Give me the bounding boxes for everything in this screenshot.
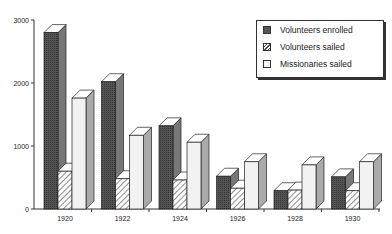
bar [102, 82, 116, 209]
bar [360, 162, 374, 209]
x-tick-label: 1928 [287, 215, 303, 222]
legend-item-sailed: Volunteers sailed [263, 38, 383, 55]
dark-swatch-icon [263, 26, 271, 34]
bar [116, 179, 130, 209]
bar [72, 98, 86, 209]
legend-label: Volunteers sailed [280, 42, 345, 52]
bar [217, 176, 231, 209]
x-tick-label: 1924 [172, 215, 188, 222]
x-tick-label: 1920 [57, 215, 73, 222]
bar [44, 33, 58, 209]
bar-group-1926 [217, 154, 267, 209]
bar [173, 180, 187, 209]
bar [346, 191, 360, 209]
x-axis-labels: 192019221924192619281930 [57, 215, 360, 222]
bar-group-1930 [332, 154, 382, 209]
bar [159, 126, 173, 209]
y-tick-label: 3000 [13, 17, 29, 24]
bar [245, 162, 259, 209]
y-tick-label: 0 [25, 206, 29, 213]
bar-group-1920 [44, 25, 94, 209]
bar [231, 188, 245, 209]
bar [130, 135, 144, 209]
x-tick-label: 1926 [230, 215, 246, 222]
bar-group-1924 [159, 118, 209, 209]
hatched-swatch-icon [263, 43, 271, 51]
bar [288, 190, 302, 209]
light-swatch-icon [263, 60, 271, 68]
y-tick-label: 1000 [13, 143, 29, 150]
legend-label: Missionaries sailed [280, 59, 352, 69]
bar [302, 165, 316, 209]
bar-group-1928 [274, 157, 324, 209]
x-tick-label: 1922 [115, 215, 131, 222]
legend-label: Volunteers enrolled [280, 25, 353, 35]
legend: Volunteers enrolled Volunteers sailed Mi… [256, 20, 384, 78]
bar [274, 191, 288, 209]
bar [187, 142, 201, 209]
x-tick-label: 1930 [345, 215, 361, 222]
legend-item-missionaries: Missionaries sailed [263, 55, 383, 72]
legend-item-enrolled: Volunteers enrolled [263, 21, 383, 38]
bar [58, 171, 72, 209]
y-tick-label: 2000 [13, 80, 29, 87]
bar-group-1922 [102, 74, 152, 209]
bar [332, 177, 346, 209]
